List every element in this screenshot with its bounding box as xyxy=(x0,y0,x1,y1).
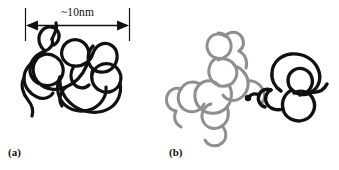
polymer-coil-figure: ~10nm (a) xyxy=(0,0,339,170)
dimension-label: ~10nm xyxy=(0,6,155,19)
coil-stroke xyxy=(266,90,283,110)
coil-chain-a xyxy=(22,23,121,116)
coil-free-end-tail xyxy=(22,78,33,116)
panel-a: ~10nm (a) xyxy=(0,0,155,170)
coil-free-end-tail xyxy=(175,111,181,127)
arrowhead-right-icon xyxy=(117,21,129,31)
panel-b-graphic xyxy=(155,0,339,170)
arrowhead-left-icon xyxy=(26,21,38,31)
coil-stroke xyxy=(24,60,53,98)
panel-a-graphic xyxy=(0,0,155,170)
coil-stroke xyxy=(178,82,204,112)
panel-b-caption: (b) xyxy=(169,146,182,158)
coil-chain-gray xyxy=(166,32,264,146)
coil-stroke xyxy=(207,33,231,58)
panel-a-caption: (a) xyxy=(8,146,21,158)
coil-stroke xyxy=(239,51,247,68)
coil-stroke xyxy=(225,32,243,51)
panel-b: (b) xyxy=(155,0,339,170)
junction-point-dot xyxy=(245,95,251,101)
